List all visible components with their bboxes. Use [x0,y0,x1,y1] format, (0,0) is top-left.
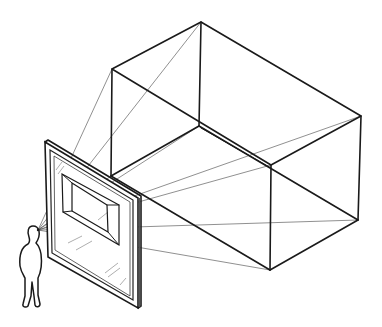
perspective-diagram: Perspective picture plane: viewer lookin… [0,0,382,327]
viewer-figure [20,226,42,307]
eye-point [37,229,39,231]
box-object [111,22,361,270]
diagram-canvas [0,0,382,327]
picture-plane-frame [45,140,141,308]
